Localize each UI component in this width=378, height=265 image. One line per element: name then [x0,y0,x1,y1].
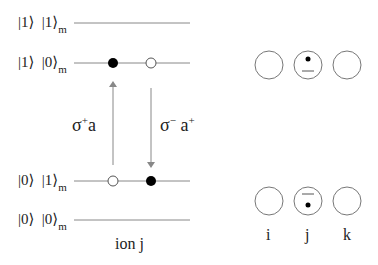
ion-i-bottom [255,187,283,215]
mode-ket: |0⟩ [42,211,58,227]
mode-subscript: m [58,220,67,232]
dagger-superscript: + [188,114,194,126]
state-label-01: |0⟩ |1⟩m [18,173,67,188]
ion-label-j: j [305,227,309,243]
mode-subscript: m [58,63,67,75]
filled-dot-lower [146,176,156,186]
ion-j-caption: ion j [115,236,144,252]
sigma-minus-a-dagger-label: σ− a+ [160,116,195,134]
mode-subscript: m [58,181,67,193]
operator: a [88,115,96,135]
sigma-plus-a-label: σ+a [72,116,96,134]
filled-dot-upper [108,58,118,68]
open-dot-upper [146,58,156,68]
ion-ket: |1⟩ [18,14,34,30]
ion-j-top-dot [306,57,311,62]
ion-k-bottom [333,187,361,215]
ion-j-bottom [294,187,322,215]
minus-superscript: − [170,114,176,126]
sigma-symbol: σ [160,115,170,135]
mode-ket: |1⟩ [42,172,58,188]
ion-ket: |1⟩ [18,54,34,70]
ion-i-top [255,51,283,79]
ion-k-top [333,51,361,79]
state-label-11: |1⟩ |1⟩m [18,15,67,30]
sigma-symbol: σ [72,115,82,135]
mode-subscript: m [58,23,67,35]
mode-ket: |0⟩ [42,54,58,70]
mode-ket: |1⟩ [42,14,58,30]
ion-ket: |0⟩ [18,172,34,188]
plus-superscript: + [82,114,88,126]
ion-j-bottom-dot [306,203,311,208]
ion-j-top [294,51,322,79]
ion-ket: |0⟩ [18,211,34,227]
ion-label-i: i [266,227,270,243]
ion-label-k: k [343,227,351,243]
state-label-00: |0⟩ |0⟩m [18,212,67,227]
open-dot-lower [108,176,118,186]
state-label-10: |1⟩ |0⟩m [18,55,67,70]
